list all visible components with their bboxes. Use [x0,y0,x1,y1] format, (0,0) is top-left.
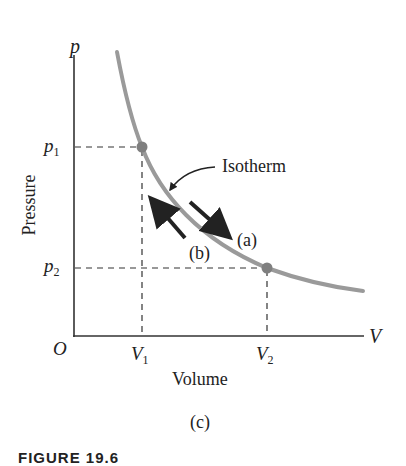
y-axis-label: Pressure [20,175,38,236]
arrow-b-label: (b) [189,244,210,262]
state-point-2 [262,263,273,274]
isotherm-leader-arrow [170,167,215,190]
isotherm-label: Isotherm [222,157,286,175]
state-point-1 [137,142,148,153]
origin-label: O [53,339,67,358]
x-axis-symbol: V [369,326,381,346]
arrow-a-expansion [190,202,227,235]
y-tick-p2: p2 [44,256,60,275]
y-tick-p1: p1 [44,136,60,155]
x-axis-label: Volume [172,370,228,388]
arrow-a-label: (a) [237,231,257,249]
x-tick-v1: V1 [131,344,149,363]
figure-caption: FIGURE 19.6 [18,449,119,466]
x-tick-v2: V2 [256,344,274,363]
y-axis-symbol: p [70,36,80,56]
panel-label: (c) [190,413,210,431]
